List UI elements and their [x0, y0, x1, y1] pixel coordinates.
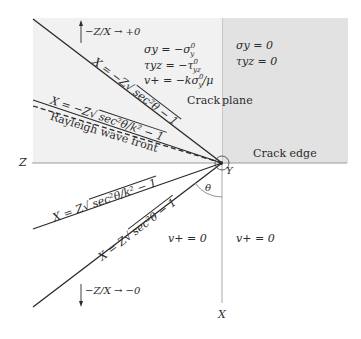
lower-right-velocity-equation: v+ = 0	[236, 233, 275, 244]
top-limit-label: −Z/X → +0	[85, 27, 140, 37]
crack-edge-label: Crack edge	[253, 148, 317, 159]
plane-label: plane	[222, 95, 253, 106]
stress-sigma-equation: σy = −σ0y	[144, 43, 194, 58]
x-axis-label: X	[218, 309, 226, 320]
z-axis-label: Z	[19, 157, 27, 168]
zero-sigma-equation: σy = 0	[236, 40, 273, 51]
velocity-equation: v+ = −kσ0y/μ	[144, 74, 213, 89]
origin-label: Y	[226, 166, 233, 176]
angle-label: θ	[205, 183, 211, 193]
bottom-limit-label: −Z/X → −0	[85, 286, 140, 296]
stress-tau-equation: τyz = −τ0yz	[144, 59, 201, 74]
crack-label: Crack	[187, 95, 220, 106]
lower-left-velocity-equation: v+ = 0	[168, 233, 207, 244]
zero-tau-equation: τyz = 0	[236, 56, 277, 67]
